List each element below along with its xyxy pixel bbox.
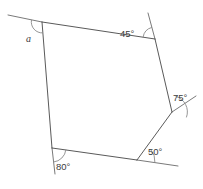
angle-label-a: a: [26, 33, 31, 44]
edge-upper-right: [155, 39, 172, 112]
geometry-diagram: a 45° 75° 50° 80°: [0, 0, 203, 189]
angle-label-45: 45°: [120, 28, 135, 39]
edge-left: [42, 22, 52, 148]
angle-label-75: 75°: [173, 92, 188, 103]
edge-top: [42, 22, 155, 39]
polygon-figure: a 45° 75° 50° 80°: [0, 0, 203, 189]
angle-label-80: 80°: [56, 161, 71, 172]
exterior-ray-bottom-right: [137, 160, 178, 166]
exterior-ray-top-right: [148, 13, 155, 39]
angle-arc-45: [143, 27, 152, 37]
exterior-ray-top-left: [8, 15, 42, 22]
exterior-ray-bottom-left: [52, 148, 55, 174]
angle-label-50: 50°: [148, 146, 163, 157]
